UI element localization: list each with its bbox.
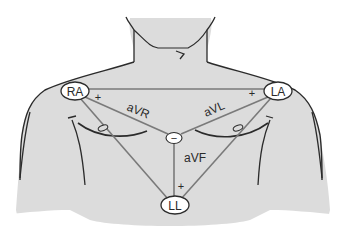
plus-sign-ll: + — [178, 180, 184, 192]
ecg-augmented-leads-diagram: RA LA LL − + + + aVR aVL aVF — [0, 0, 341, 231]
lead-label-avf: aVF — [184, 151, 206, 165]
plus-sign-la: + — [249, 87, 255, 99]
central-terminal: − — [166, 132, 182, 144]
electrode-ra-label: RA — [67, 85, 84, 99]
electrode-la-label: LA — [271, 85, 286, 99]
electrode-ll-label: LL — [168, 199, 182, 213]
plus-sign-ra: + — [95, 91, 101, 103]
electrode-la: LA — [264, 82, 292, 100]
electrode-ll: LL — [161, 196, 189, 214]
torso-diagram: RA LA LL − + + + aVR aVL aVF — [0, 0, 341, 231]
central-terminal-minus: − — [171, 132, 177, 144]
electrode-ra: RA — [61, 82, 89, 100]
